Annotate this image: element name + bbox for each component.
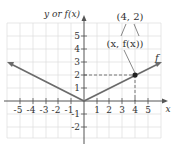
svg-text:1: 1 (74, 83, 80, 93)
x-tick-labels: -5 -4 -3 -2 -1 1 2 3 4 5 (14, 105, 152, 115)
function-label: f (154, 52, 161, 63)
svg-text:4: 4 (74, 44, 80, 54)
svg-text:2: 2 (106, 105, 112, 115)
x-axis-label: x (165, 104, 170, 114)
svg-text:-2: -2 (52, 105, 61, 115)
svg-text:3: 3 (74, 57, 80, 67)
point-label: (4, 2) (117, 11, 144, 22)
y-axis-label: y or f(x) (43, 9, 80, 19)
svg-text:-1: -1 (71, 109, 80, 119)
svg-text:1: 1 (94, 105, 100, 115)
svg-text:3: 3 (119, 105, 125, 115)
svg-text:-4: -4 (27, 105, 36, 115)
svg-text:-3: -3 (40, 105, 49, 115)
svg-text:5: 5 (74, 31, 80, 41)
highlight-point (132, 72, 137, 77)
generic-point-label: (x, f(x)) (107, 38, 144, 49)
svg-text:4: 4 (132, 105, 138, 115)
y-tick-labels: -2 -1 1 2 3 4 5 (71, 31, 80, 132)
function-graph: -5 -4 -3 -2 -1 1 2 3 4 5 -2 -1 1 2 3 4 5… (0, 0, 175, 150)
left-arrow-head (7, 62, 14, 67)
svg-text:-2: -2 (71, 122, 80, 132)
svg-text:5: 5 (145, 105, 151, 115)
svg-text:2: 2 (74, 70, 80, 80)
axes (4, 15, 168, 144)
svg-text:-5: -5 (14, 105, 23, 115)
